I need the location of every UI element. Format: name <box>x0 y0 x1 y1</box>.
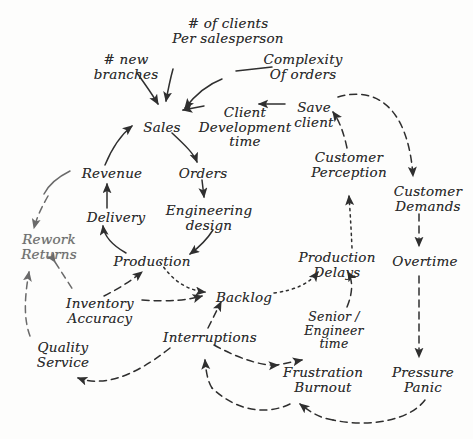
node-revenue[interactable]: Revenue <box>78 166 146 181</box>
link-orders-to-engineering <box>202 180 204 197</box>
node-new-branches[interactable]: # new branches <box>88 52 164 81</box>
node-rework-returns[interactable]: Rework Returns <box>16 232 82 261</box>
link-revenue-outer-arc <box>44 171 70 194</box>
link-upperleft-to-rework <box>34 196 48 228</box>
node-production[interactable]: Production <box>110 254 194 269</box>
causal-loop-diagram: # of clients Per salesperson # new branc… <box>0 0 473 439</box>
node-complexity-of-orders[interactable]: Complexity Of orders <box>258 52 348 81</box>
node-save-client[interactable]: Save client <box>289 100 339 129</box>
link-complexity-to-sales <box>185 79 222 108</box>
link-revenue-to-sales <box>105 126 132 165</box>
node-orders[interactable]: Orders <box>175 166 231 181</box>
link-frustration-inflow <box>300 404 333 420</box>
node-customer-perception[interactable]: Customer Perception <box>305 150 393 179</box>
node-customer-demands[interactable]: Customer Demands <box>388 184 468 213</box>
node-engineering-design[interactable]: Engineering design <box>163 203 255 232</box>
node-production-delays[interactable]: Production Delays <box>295 250 379 279</box>
node-sales[interactable]: Sales <box>140 120 184 135</box>
link-engineering-to-production <box>190 230 213 254</box>
link-frustration-to-interruptions <box>212 388 290 410</box>
node-frustration-burnout[interactable]: Frustration Burnout <box>280 365 366 394</box>
node-quality-service[interactable]: Quality Service <box>32 340 94 369</box>
link-pressure-to-frustration <box>333 400 425 423</box>
link-inventory-to-production <box>104 272 142 296</box>
node-overtime[interactable]: Overtime <box>388 254 462 269</box>
link-interruptions-return-head <box>205 360 212 388</box>
link-interruptions-to-frustration <box>214 345 278 365</box>
node-interruptions[interactable]: Interruptions <box>162 330 258 345</box>
link-inventory-to-backlog <box>142 296 202 301</box>
link-interruptions-to-backlog <box>208 302 221 328</box>
link-quality-to-rework <box>25 272 30 336</box>
node-pressure-panic[interactable]: Pressure Panic <box>387 365 459 394</box>
link-sales-to-orders <box>172 133 197 162</box>
node-clients-per-salesperson[interactable]: # of clients Per salesperson <box>168 16 288 45</box>
link-clients-to-sales <box>166 69 173 101</box>
link-inventory-to-rework <box>55 262 73 290</box>
node-client-development-time[interactable]: Client Development time <box>197 105 293 149</box>
node-delivery[interactable]: Delivery <box>84 210 148 225</box>
node-inventory-accuracy[interactable]: Inventory Accuracy <box>62 296 138 325</box>
link-delays-to-perception <box>349 196 352 248</box>
link-production-to-delivery <box>103 226 126 253</box>
node-backlog[interactable]: Backlog <box>212 290 276 305</box>
node-senior-engineer-time[interactable]: Senior / Engineer time <box>303 310 365 351</box>
